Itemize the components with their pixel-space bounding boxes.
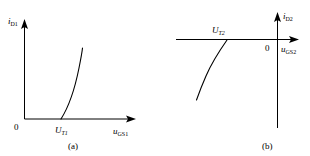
panel-b-curve [197, 40, 228, 100]
panel-b-x-axis-subscript: GS2 [286, 49, 297, 55]
panel-a-y-axis-subscript: D1 [11, 21, 18, 27]
panel-b-caption: (b) [262, 141, 273, 151]
panel-a: iD1 uGS1 0 UT1 (a) [8, 16, 136, 151]
panel-a-origin-label: 0 [14, 122, 19, 132]
panel-b-y-axis-label: iD2 [283, 11, 293, 22]
panel-a-threshold-subscript: T1 [62, 130, 68, 136]
panel-b-threshold-subscript: T2 [219, 30, 225, 36]
panel-a-x-axis-label: uGS1 [113, 126, 128, 137]
transfer-characteristics-svg: iD1 uGS1 0 UT1 (a) [0, 0, 310, 156]
panel-a-y-axis-label: iD1 [8, 16, 18, 27]
panel-b-x-axis-label: uGS2 [281, 44, 296, 55]
panel-a-caption: (a) [68, 141, 78, 151]
panel-a-x-axis-subscript: GS1 [118, 131, 129, 137]
panel-b-origin-label: 0 [265, 43, 270, 53]
panel-b-threshold-label: UT2 [212, 25, 225, 36]
panel-a-curve [61, 48, 83, 119]
panel-a-threshold-label: UT1 [55, 125, 68, 136]
panel-b: iD2 uGS2 0 UT2 (b) [176, 11, 299, 151]
panel-b-y-axis-subscript: D2 [286, 16, 293, 22]
figure-container: iD1 uGS1 0 UT1 (a) [0, 0, 310, 156]
